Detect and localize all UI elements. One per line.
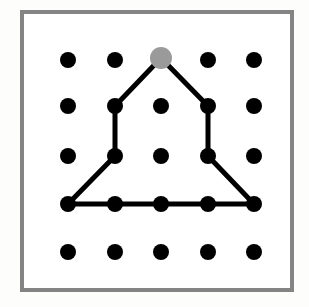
grid-dot[interactable] xyxy=(107,196,123,212)
grid-dot[interactable] xyxy=(200,244,216,260)
dot-grid-canvas xyxy=(0,0,309,307)
grid-dot[interactable] xyxy=(60,196,76,212)
grid-dot[interactable] xyxy=(153,244,169,260)
grid-dot[interactable] xyxy=(107,98,123,114)
grid-dot[interactable] xyxy=(200,148,216,164)
grid-dot[interactable] xyxy=(246,196,262,212)
grid-dot[interactable] xyxy=(153,98,169,114)
grid-dot[interactable] xyxy=(60,98,76,114)
grid-dot[interactable] xyxy=(200,196,216,212)
grid-dot[interactable] xyxy=(107,148,123,164)
grid-dot[interactable] xyxy=(60,148,76,164)
grid-dot[interactable] xyxy=(60,52,76,68)
grid-dot[interactable] xyxy=(153,196,169,212)
highlighted-grid-dot[interactable] xyxy=(150,47,172,69)
grid-dot[interactable] xyxy=(153,148,169,164)
grid-dot[interactable] xyxy=(107,244,123,260)
grid-dot[interactable] xyxy=(107,52,123,68)
grid-dot[interactable] xyxy=(246,52,262,68)
grid-dot[interactable] xyxy=(200,52,216,68)
grid-dot[interactable] xyxy=(246,244,262,260)
grid-dot[interactable] xyxy=(200,98,216,114)
grid-dot[interactable] xyxy=(246,148,262,164)
geoboard-figure xyxy=(0,0,309,307)
grid-dot[interactable] xyxy=(246,98,262,114)
grid-dot[interactable] xyxy=(60,244,76,260)
